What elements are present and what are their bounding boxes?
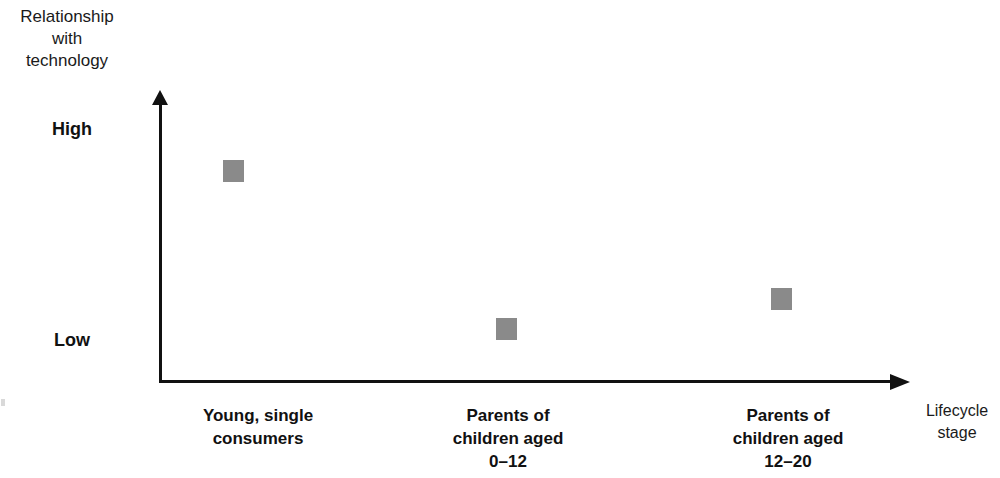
x-axis-line bbox=[159, 380, 892, 383]
y-tick-label-low: Low bbox=[16, 329, 128, 351]
y-axis-arrowhead-icon bbox=[152, 90, 168, 105]
x-category-label-3: Parents of children aged 12–20 bbox=[688, 404, 888, 473]
chart-figure: Relationship with technology High Low Yo… bbox=[0, 0, 1000, 478]
x-axis-arrowhead-icon bbox=[890, 374, 910, 390]
data-marker-square-1 bbox=[223, 160, 244, 182]
y-axis-line bbox=[159, 101, 162, 383]
x-category-label-1: Young, single consumers bbox=[158, 404, 358, 450]
y-tick-label-high: High bbox=[16, 118, 128, 140]
y-axis-title: Relationship with technology bbox=[4, 6, 130, 72]
x-category-label-2: Parents of children aged 0–12 bbox=[408, 404, 608, 473]
data-marker-square-3 bbox=[771, 288, 792, 310]
x-axis-title: Lifecycle stage bbox=[916, 400, 998, 444]
scan-artifact bbox=[1, 399, 5, 406]
data-marker-square-2 bbox=[496, 318, 517, 340]
